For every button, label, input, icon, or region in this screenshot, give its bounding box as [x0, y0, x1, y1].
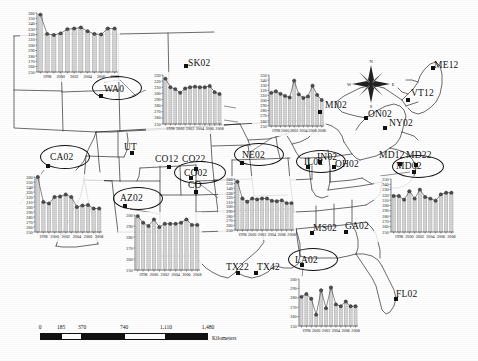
svg-text:1998: 1998	[166, 126, 174, 131]
site-label-ny02: NY02	[389, 118, 413, 128]
svg-text:2000: 2000	[405, 234, 413, 239]
site-point-ne02[interactable]	[240, 161, 244, 165]
site-point-vt12[interactable]	[406, 98, 410, 102]
svg-text:300: 300	[154, 91, 160, 96]
site-label-md02: MD02	[396, 161, 422, 171]
svg-text:2006: 2006	[342, 328, 350, 333]
svg-text:1998: 1998	[238, 232, 246, 237]
site-label-tx42: TX42	[257, 262, 280, 272]
svg-text:2008: 2008	[318, 128, 326, 133]
site-label-ms02: MS02	[313, 223, 337, 233]
svg-text:290: 290	[28, 48, 34, 53]
scale-bar-segments	[40, 333, 208, 341]
site-label-wa0: WA0	[104, 84, 124, 94]
svg-text:2004: 2004	[171, 272, 180, 277]
svg-text:2008: 2008	[287, 232, 295, 237]
svg-text:2000: 2000	[56, 74, 64, 79]
svg-text:260: 260	[382, 224, 388, 229]
svg-text:2008: 2008	[95, 234, 103, 239]
svg-text:2000: 2000	[281, 128, 289, 133]
svg-text:330: 330	[382, 187, 388, 192]
site-label-fl02: FL02	[396, 289, 417, 299]
scale-bar-tick-3: 740	[120, 324, 128, 330]
scale-bar-segment-0	[40, 333, 61, 340]
site-label-ut: UT	[124, 142, 137, 152]
svg-text:280: 280	[126, 235, 132, 240]
compass-west-label: W	[347, 82, 352, 87]
svg-text:260: 260	[290, 314, 296, 319]
svg-text:340: 340	[382, 182, 388, 187]
svg-text:290: 290	[126, 224, 132, 229]
site-label-az02: AZ02	[120, 193, 143, 203]
site-point-co[interactable]	[194, 190, 198, 194]
site-label-co12: CO12	[155, 154, 179, 164]
svg-text:320: 320	[382, 193, 388, 198]
svg-text:330: 330	[28, 27, 34, 32]
svg-text:2006: 2006	[278, 232, 286, 237]
svg-text:290: 290	[290, 286, 296, 291]
svg-text:2008: 2008	[351, 328, 359, 333]
svg-text:260: 260	[28, 64, 34, 69]
site-point-ny02[interactable]	[383, 126, 387, 130]
scale-bar: 01853707401,1101,480 Kilometers	[40, 324, 240, 350]
site-label-la02: LA02	[295, 255, 318, 265]
site-label-me12: ME12	[434, 60, 459, 70]
svg-text:250: 250	[260, 124, 266, 129]
site-label-oh02: OH02	[335, 159, 359, 169]
site-point-ca02[interactable]	[46, 164, 50, 168]
svg-text:350: 350	[28, 16, 34, 21]
svg-text:2008: 2008	[447, 234, 455, 239]
compass-south-label: S	[370, 104, 373, 109]
inset-chart-az02: 3002902802702602501998200020022004200620…	[118, 212, 202, 280]
svg-text:2004: 2004	[73, 234, 82, 239]
site-label-ca02: CA02	[50, 152, 74, 162]
svg-text:2008: 2008	[215, 126, 223, 131]
site-point-mi02[interactable]	[318, 110, 322, 114]
svg-text:320: 320	[28, 32, 34, 37]
site-label-tx22: TX22	[226, 262, 249, 272]
svg-text:280: 280	[382, 214, 388, 219]
inset-chart-co02: 3603503403303203103002902802702602501998…	[218, 176, 296, 240]
scale-bar-segment-4	[166, 333, 208, 340]
scale-bar-segment-2	[82, 333, 124, 340]
scale-bar-segment-1	[61, 333, 82, 340]
svg-text:2008: 2008	[193, 272, 201, 277]
svg-text:290: 290	[382, 208, 388, 213]
svg-text:280: 280	[290, 295, 296, 300]
svg-text:2006: 2006	[182, 272, 190, 277]
site-label-mi02: MI02	[325, 100, 347, 110]
inset-chart-la02: 3002902802702602501998200020022004200620…	[282, 276, 360, 336]
svg-text:250: 250	[126, 268, 132, 273]
site-point-co12[interactable]	[167, 165, 171, 169]
svg-text:250: 250	[28, 70, 34, 75]
site-point-wa0[interactable]	[99, 94, 103, 98]
compass-rose: N E S W	[345, 58, 397, 114]
site-label-ga02: GA02	[345, 221, 369, 231]
svg-text:300: 300	[28, 43, 34, 48]
site-label-sk02: SK02	[188, 58, 210, 68]
svg-text:2002: 2002	[258, 232, 266, 237]
svg-text:270: 270	[28, 59, 34, 64]
site-label-vt12: VT12	[411, 88, 434, 98]
inset-chart-wa0: 3603503403303203103002902802702602501998…	[20, 10, 120, 82]
svg-text:290: 290	[154, 97, 160, 102]
svg-text:260: 260	[154, 115, 160, 120]
svg-text:1998: 1998	[43, 74, 51, 79]
svg-text:2004: 2004	[332, 328, 341, 333]
site-label-ne02: NE02	[242, 150, 265, 160]
svg-text:300: 300	[382, 203, 388, 208]
svg-text:2002: 2002	[186, 126, 194, 131]
svg-text:2004: 2004	[426, 234, 435, 239]
svg-text:2002: 2002	[290, 128, 298, 133]
svg-text:310: 310	[28, 37, 34, 42]
inset-chart-ut: 3303203103002902802702602501998200020022…	[146, 72, 224, 134]
svg-text:270: 270	[382, 219, 388, 224]
svg-text:2002: 2002	[62, 234, 70, 239]
svg-text:2002: 2002	[322, 328, 330, 333]
svg-text:2000: 2000	[176, 126, 184, 131]
svg-text:2006: 2006	[84, 234, 92, 239]
scale-bar-tick-2: 370	[78, 324, 86, 330]
figure-canvas: 3603503403303203103002902802702602501998…	[0, 0, 478, 361]
site-point-az02[interactable]	[123, 204, 127, 208]
scale-bar-tick-1: 185	[57, 324, 65, 330]
